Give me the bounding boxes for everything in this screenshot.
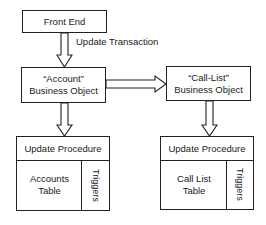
account-business-object-node: “Account” Business Object — [21, 67, 106, 103]
accounts-table-line1: Accounts — [30, 173, 69, 185]
arrow-account-to-db — [57, 103, 72, 136]
accounts-table: Accounts Table — [17, 160, 82, 210]
accounts-table-line2: Table — [38, 185, 61, 197]
front-end-node: Front End — [22, 10, 107, 33]
arrow-account-to-calllist — [106, 76, 166, 92]
account-bo-line1: “Account” — [43, 73, 84, 85]
calllist-business-object-node: “Call-List” Business Object — [166, 66, 251, 101]
accounts-triggers-label: Triggers — [91, 169, 101, 202]
calllist-update-procedure: Update Procedure — [161, 137, 253, 161]
update-transaction-label: Update Transaction — [76, 36, 158, 47]
calllist-procedure-label: Update Procedure — [168, 143, 245, 154]
calllist-database-node: Update Procedure Call List Table Trigger… — [160, 136, 254, 210]
arrow-calllist-to-db — [202, 101, 217, 136]
calllist-table: Call List Table — [161, 160, 227, 209]
front-end-label: Front End — [44, 16, 86, 28]
accounts-update-procedure: Update Procedure — [17, 137, 109, 161]
accounts-database-node: Update Procedure Accounts Table Triggers — [16, 136, 110, 211]
calllist-table-line1: Call List — [177, 173, 211, 185]
arrow-frontend-to-account — [57, 33, 72, 67]
account-bo-line2: Business Object — [29, 85, 98, 97]
calllist-triggers-label: Triggers — [235, 168, 245, 201]
accounts-triggers: Triggers — [81, 160, 109, 210]
calllist-triggers: Triggers — [226, 160, 253, 209]
calllist-table-line2: Table — [183, 185, 206, 197]
accounts-procedure-label: Update Procedure — [24, 143, 101, 154]
calllist-bo-line2: Business Object — [174, 84, 243, 96]
calllist-bo-line1: “Call-List” — [188, 72, 229, 84]
